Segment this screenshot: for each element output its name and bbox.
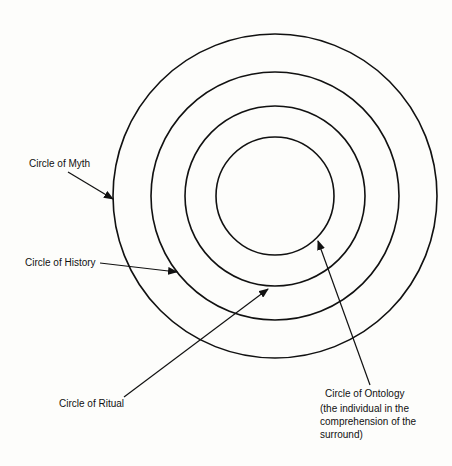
ontology-description: (the individual in the comprehension of …	[320, 402, 435, 441]
circle-of-myth	[113, 34, 437, 358]
label-circle-of-history: Circle of History	[25, 256, 96, 269]
circle-of-ontology	[216, 137, 334, 255]
arrow-myth	[68, 172, 113, 199]
label-circle-of-ontology: Circle of Ontology	[325, 387, 404, 400]
circle-of-history	[151, 72, 399, 320]
label-circle-of-myth: Circle of Myth	[29, 157, 90, 170]
circle-of-ritual	[185, 106, 365, 286]
arrow-ontology	[318, 241, 370, 385]
label-circle-of-ritual: Circle of Ritual	[59, 397, 124, 410]
arrow-ritual	[124, 289, 268, 397]
arrow-history	[100, 263, 177, 272]
